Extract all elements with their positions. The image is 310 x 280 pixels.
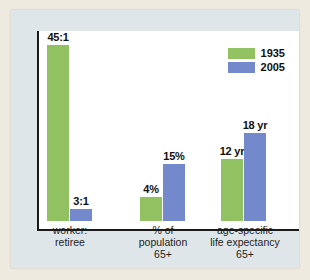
category-label-line: 65+ xyxy=(193,248,297,260)
bar-2005-group1: 3:1 xyxy=(70,209,92,221)
bar-2005-group2: 15% xyxy=(163,164,185,221)
bar-value-label: 45:1 xyxy=(47,31,68,43)
bar-1935-group2: 4% xyxy=(140,197,162,221)
bar-rect xyxy=(140,197,162,221)
bar-value-label: 4% xyxy=(143,183,159,195)
category-label-line: worker: xyxy=(24,224,116,236)
bar-1935-group3: 12 yr xyxy=(221,159,243,221)
bar-1935-group1: 45:1 xyxy=(47,45,69,221)
category-label-line: life expectancy xyxy=(193,236,297,248)
category-label-line: retiree xyxy=(24,236,116,248)
bar-rect xyxy=(70,209,92,221)
category-label-line: age-specific xyxy=(193,224,297,236)
bar-value-label: 15% xyxy=(163,150,184,162)
bar-2005-group3: 18 yr xyxy=(244,133,266,221)
bar-value-label: 12 yr xyxy=(220,145,245,157)
bar-rect xyxy=(163,164,185,221)
bar-rect xyxy=(244,133,266,221)
bar-rect xyxy=(47,45,69,221)
chart-figure: 1935 2005 45:14%12 yr3:115%18 yr worker:… xyxy=(0,0,310,280)
bar-value-label: 3:1 xyxy=(73,195,88,207)
bar-value-label: 18 yr xyxy=(243,119,268,131)
category-label-1: worker:retiree xyxy=(24,224,116,248)
bar-rect xyxy=(221,159,243,221)
category-label-3: age-specificlife expectancy65+ xyxy=(193,224,297,260)
